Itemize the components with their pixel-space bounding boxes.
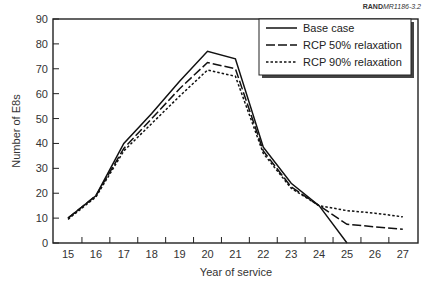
y-tick-label: 10 [36, 212, 48, 224]
y-axis-title: Number of E8s [10, 94, 22, 168]
series-line [68, 70, 403, 219]
x-tick-label: 23 [285, 248, 297, 260]
series-line [68, 51, 347, 243]
x-tick-label: 20 [201, 248, 213, 260]
y-tick-label: 30 [36, 162, 48, 174]
legend: Base caseRCP 50% relaxationRCP 90% relax… [259, 19, 414, 78]
y-tick-label: 90 [36, 13, 48, 25]
x-tick-label: 19 [173, 248, 185, 260]
x-tick-label: 21 [229, 248, 241, 260]
series-lines [68, 51, 403, 243]
x-axis-title: Year of service [200, 266, 272, 278]
x-tick-label: 18 [146, 248, 158, 260]
x-tick-label: 26 [369, 248, 381, 260]
line-chart: 0102030405060708090 15161718192021222324… [0, 0, 429, 291]
legend-label: RCP 50% relaxation [303, 39, 402, 51]
x-tick-label: 25 [341, 248, 353, 260]
legend-label: Base case [303, 22, 354, 34]
y-tick-label: 50 [36, 113, 48, 125]
y-tick-label: 80 [36, 38, 48, 50]
x-tick-label: 16 [90, 248, 102, 260]
y-tick-label: 60 [36, 88, 48, 100]
y-tick-label: 20 [36, 187, 48, 199]
x-axis: 15161718192021222324252627 [62, 237, 409, 260]
x-tick-label: 24 [313, 248, 325, 260]
x-tick-label: 22 [257, 248, 269, 260]
y-tick-label: 0 [42, 237, 48, 249]
y-tick-label: 70 [36, 63, 48, 75]
y-axis: 0102030405060708090 [36, 13, 59, 249]
legend-label: RCP 90% relaxation [303, 56, 402, 68]
series-line [68, 63, 403, 230]
x-tick-label: 27 [397, 248, 409, 260]
x-tick-label: 17 [118, 248, 130, 260]
x-tick-label: 15 [62, 248, 74, 260]
y-tick-label: 40 [36, 137, 48, 149]
